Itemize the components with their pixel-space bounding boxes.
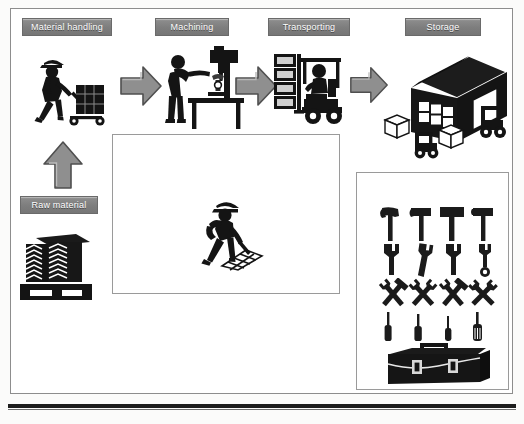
hammer-row [378,206,500,244]
label-storage-text: Storage [427,22,460,32]
arrow-material-to-machining-icon [119,65,163,107]
worker-sweeping-icon [194,198,266,272]
label-raw-material-text: Raw material [32,200,87,210]
label-machining[interactable]: Machining [155,18,229,36]
toolbox-icon [382,340,496,390]
arrow-raw-to-material-handling-icon [42,140,84,190]
crossed-tool-row [378,278,500,310]
label-machining-text: Machining [171,22,214,32]
label-material-handling-text: Material handling [31,22,103,32]
stacked-angle-bars-on-pallet-icon [18,232,102,302]
label-raw-material[interactable]: Raw material [20,196,98,214]
label-storage[interactable]: Storage [405,18,481,36]
diagram-canvas: Material handling Machining Transporting… [0,0,524,424]
warehouse-with-forklifts-icon [381,48,509,160]
label-transporting[interactable]: Transporting [268,18,350,36]
forklift-with-pallet-stack-icon [272,52,350,128]
label-transporting-text: Transporting [283,22,336,32]
worker-pushing-hand-truck-icon [24,56,108,126]
worker-at-drill-press-icon [158,46,246,130]
label-material-handling[interactable]: Material handling [22,18,112,36]
wrench-row [378,243,500,279]
bottom-divider-rule [8,404,516,408]
